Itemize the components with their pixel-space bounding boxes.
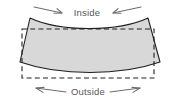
outside-arrow-right-icon <box>110 87 140 92</box>
diagram-container: Inside Outside <box>0 0 175 103</box>
outside-arrow-left-icon <box>36 87 66 92</box>
inside-arrow-right-icon <box>113 7 141 13</box>
bowed-panel-shape <box>20 18 160 73</box>
inside-label: Inside <box>74 7 101 18</box>
outside-label: Outside <box>71 86 105 97</box>
inside-arrow-left-icon <box>34 7 62 13</box>
bowed-panel-diagram: Inside Outside <box>0 0 175 103</box>
